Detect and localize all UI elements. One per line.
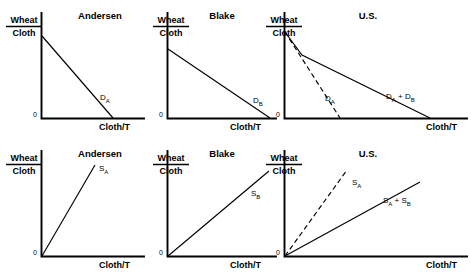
axes <box>42 151 145 257</box>
curve-label-da: DA <box>325 94 335 105</box>
x-axis-label: Cloth/T <box>426 122 457 132</box>
y-axis-denominator: Cloth <box>13 28 36 38</box>
panel-title: Andersen <box>78 148 122 159</box>
demand-curve-blake <box>168 49 270 118</box>
x-axis-label: Cloth/T <box>230 260 261 270</box>
aggregate-supply-curve <box>285 182 420 256</box>
panel-blake-demand: Blake Wheat Cloth 0 DB Cloth/T <box>150 0 280 138</box>
origin-label: 0 <box>276 249 280 256</box>
panel-us-demand: U.S. Wheat Cloth 0 DA DA + DB Cloth/T <box>262 0 471 138</box>
curve-label-sb: SB <box>251 189 260 200</box>
axes <box>168 151 277 257</box>
economics-figure: Andersen Wheat Cloth 0 DA Cloth/T Blake … <box>0 0 471 276</box>
y-axis-denominator: Cloth <box>13 166 36 176</box>
origin-label: 0 <box>276 111 280 118</box>
curve-label-da-plus-db: DA + DB <box>386 92 415 103</box>
panel-title: U.S. <box>359 148 377 159</box>
supply-curve-blake <box>168 171 269 256</box>
y-axis-numerator: Wheat <box>158 15 185 25</box>
panel-us-supply: U.S. Wheat Cloth 0 SA SA + SB Cloth/T <box>262 138 471 276</box>
x-axis-label: Cloth/T <box>99 260 130 270</box>
y-axis-numerator: Wheat <box>11 153 38 163</box>
supply-curve-andersen <box>42 165 95 256</box>
panel-title: U.S. <box>359 10 377 21</box>
origin-label: 0 <box>33 111 37 118</box>
axes <box>42 13 145 119</box>
panel-title: Andersen <box>78 10 122 21</box>
x-axis-label: Cloth/T <box>99 122 130 132</box>
origin-label: 0 <box>33 249 37 256</box>
panel-title: Blake <box>209 148 234 159</box>
supply-curve-andersen-dashed <box>285 170 347 256</box>
panel-title: Blake <box>209 10 234 21</box>
curve-label-da: DA <box>100 93 110 104</box>
curve-label-sa: SA <box>99 164 108 175</box>
panel-andersen-supply: Andersen Wheat Cloth 0 SA Cloth/T <box>0 138 150 276</box>
curve-label-sa: SA <box>352 178 361 189</box>
y-axis-denominator: Cloth <box>160 28 183 38</box>
y-axis-numerator: Wheat <box>158 153 185 163</box>
x-axis-label: Cloth/T <box>230 122 261 132</box>
x-axis-label: Cloth/T <box>426 260 457 270</box>
origin-label: 0 <box>159 249 163 256</box>
demand-curve-andersen-dashed <box>285 32 340 118</box>
axes <box>285 13 468 119</box>
curve-label-sa-plus-sb: SA + SB <box>383 196 411 207</box>
aggregate-demand-curve <box>285 32 430 118</box>
origin-label: 0 <box>159 111 163 118</box>
y-axis-denominator: Cloth <box>160 166 183 176</box>
panel-blake-supply: Blake Wheat Cloth 0 SB Cloth/T <box>150 138 280 276</box>
y-axis-numerator: Wheat <box>11 15 38 25</box>
demand-curve-andersen <box>42 36 113 118</box>
panel-andersen-demand: Andersen Wheat Cloth 0 DA Cloth/T <box>0 0 150 138</box>
